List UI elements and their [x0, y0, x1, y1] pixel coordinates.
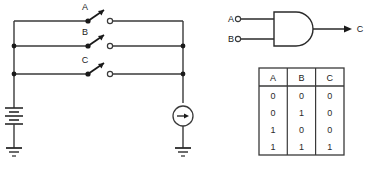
junction-dot-right-c	[181, 72, 186, 77]
and-gate-body	[274, 12, 313, 46]
cell-r3-a: 1	[271, 142, 276, 152]
cell-r1-c: 0	[327, 108, 332, 118]
truth-table-header-b: B	[298, 73, 304, 83]
switch-b-label: B	[82, 27, 88, 37]
cell-r3-b: 1	[299, 142, 304, 152]
battery	[5, 101, 23, 148]
switch-c[interactable]: C	[82, 55, 113, 77]
cell-r2-c: 0	[327, 125, 332, 135]
switch-c-label: C	[82, 55, 89, 65]
switch-circuit: A B C	[5, 2, 193, 156]
junction-dot-left-c	[12, 72, 17, 77]
cell-r0-a: 0	[271, 91, 276, 101]
switch-a-terminal	[107, 18, 112, 23]
circuit-logic-figure: A B C	[0, 0, 375, 169]
output-c-label: C	[357, 24, 364, 34]
input-a-label: A	[228, 14, 234, 24]
switch-a-label: A	[82, 2, 88, 12]
junction-dot-left-b	[12, 44, 17, 49]
junction-dot-right-b	[181, 44, 186, 49]
truth-table: A B C 0 0 0 0 1 0 1 0 0 1 1 1	[259, 68, 344, 155]
cell-r0-b: 0	[299, 91, 304, 101]
cell-r3-c: 1	[327, 142, 332, 152]
cell-r1-b: 1	[299, 108, 304, 118]
current-source	[173, 106, 193, 148]
input-b-label: B	[228, 34, 234, 44]
switch-b-terminal	[107, 43, 112, 48]
input-b-terminal	[235, 36, 240, 41]
input-a-terminal	[235, 16, 240, 21]
ground-left	[6, 148, 22, 156]
switch-a[interactable]: A	[82, 2, 113, 24]
switch-c-terminal	[107, 71, 112, 76]
cell-r0-c: 0	[327, 91, 332, 101]
ground-right	[175, 148, 191, 156]
output-c-arrowhead	[344, 26, 352, 33]
cell-r1-a: 0	[271, 108, 276, 118]
truth-table-header-a: A	[270, 73, 276, 83]
cell-r2-b: 0	[299, 125, 304, 135]
switch-b[interactable]: B	[82, 27, 113, 49]
cell-r2-a: 1	[271, 125, 276, 135]
and-gate: A B C	[228, 12, 364, 46]
truth-table-header-c: C	[327, 73, 334, 83]
